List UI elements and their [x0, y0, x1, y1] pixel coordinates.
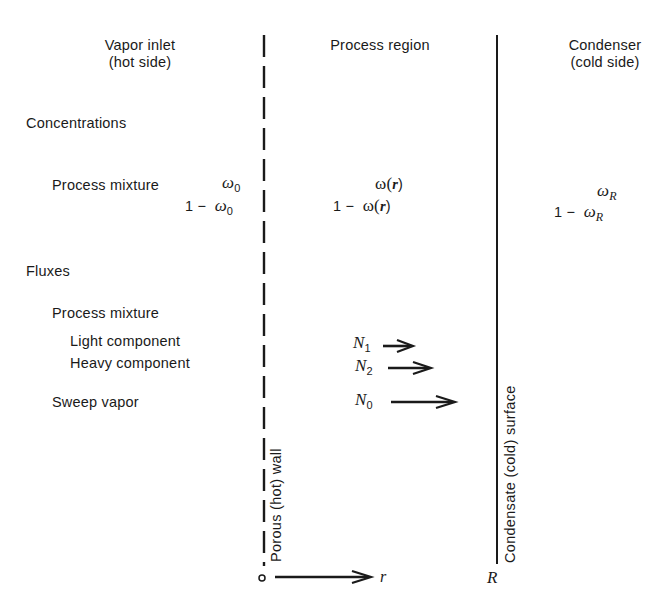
header-process-region-line1: Process region [310, 37, 450, 54]
flux-heavy-component-label: Heavy component [70, 355, 190, 372]
inlet-omega0: ω0 [222, 174, 241, 193]
n-symbol: N [353, 333, 365, 352]
origin-circle-icon [259, 575, 265, 581]
condensate-surface-label: Condensate (cold) surface [502, 385, 518, 563]
header-vapor-inlet-line1: Vapor inlet [70, 37, 210, 54]
section-concentrations: Concentrations [26, 115, 126, 132]
n-subscript: 1 [365, 342, 371, 354]
one-minus: 1 − [554, 204, 575, 220]
condenser-omegaR: ωR [597, 182, 617, 201]
section-fluxes: Fluxes [26, 263, 70, 280]
n-symbol: N [355, 356, 367, 375]
arrow-n0-icon [391, 396, 455, 408]
header-vapor-inlet-line2: (hot side) [70, 54, 210, 71]
one-minus: 1 − [185, 198, 206, 214]
flux-light-component-label: Light component [70, 333, 180, 350]
header-condenser-line1: Condenser [545, 37, 662, 54]
omega-subscript: 0 [234, 182, 240, 194]
process-one-minus-omega-r: 1 − ω(r) [333, 197, 391, 215]
omega-open: ω( [375, 174, 392, 193]
arrow-n2-icon [388, 362, 431, 374]
n-symbol: N [355, 390, 367, 409]
condenser-one-minus-omegaR: 1 − ωR [554, 203, 603, 222]
porous-wall-label: Porous (hot) wall [268, 448, 284, 562]
axis-r-label: r [380, 568, 386, 585]
flux-n1: N1 [353, 334, 371, 353]
flux-sweep-vapor-label: Sweep vapor [52, 394, 139, 411]
flux-n0: N0 [355, 391, 373, 410]
header-process-region: Process region [310, 37, 450, 54]
inlet-one-minus-omega0: 1 − ω0 [185, 197, 233, 216]
omega-symbol: ω [215, 196, 227, 215]
n-subscript: 2 [367, 365, 373, 377]
header-vapor-inlet: Vapor inlet (hot side) [70, 37, 210, 71]
arrow-n1-icon [383, 340, 413, 352]
omega-subscript: R [596, 210, 604, 224]
r-axis-arrow-icon [275, 571, 371, 583]
omega-open: ω( [363, 196, 380, 215]
omega-symbol: ω [584, 202, 596, 221]
close-paren: ) [386, 198, 391, 214]
omega-subscript: 0 [227, 205, 233, 217]
process-omega-r: ω(r) [375, 175, 403, 193]
diagram-lines [0, 0, 662, 604]
axis-R-label: R [487, 569, 498, 586]
concentration-process-mixture-label: Process mixture [52, 177, 159, 194]
omega-subscript: R [609, 189, 617, 203]
header-condenser: Condenser (cold side) [545, 37, 662, 71]
flux-process-mixture-label: Process mixture [52, 305, 159, 322]
omega-symbol: ω [222, 173, 234, 192]
header-condenser-line2: (cold side) [545, 54, 662, 71]
n-subscript: 0 [367, 399, 373, 411]
flux-n2: N2 [355, 357, 373, 376]
omega-symbol: ω [597, 181, 609, 200]
close-paren: ) [398, 176, 403, 192]
one-minus: 1 − [333, 198, 354, 214]
